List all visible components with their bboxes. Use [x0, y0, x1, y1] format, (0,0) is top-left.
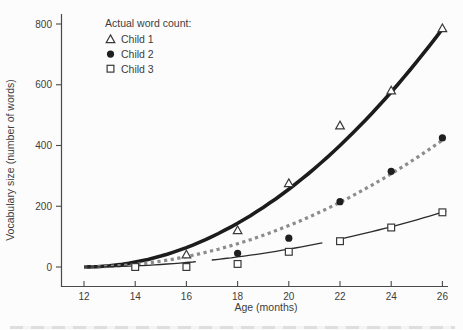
cropped-caption-remnant [10, 326, 455, 329]
x-tick-label: 12 [78, 291, 90, 302]
data-point-child-3 [132, 264, 139, 271]
data-point-child-3 [183, 264, 190, 271]
x-tick-label: 24 [386, 291, 398, 302]
legend-items: Child 1Child 2Child 3 [106, 33, 154, 74]
legend-marker-open-triangle [106, 35, 115, 43]
fit-curve-3 [84, 210, 449, 267]
data-point-child-3 [234, 261, 241, 268]
data-point-child-2 [234, 250, 241, 257]
data-point-child-1 [233, 226, 242, 234]
x-tick-label: 22 [334, 291, 346, 302]
x-tick-label: 14 [130, 291, 142, 302]
data-point-child-1 [438, 24, 447, 32]
vocabulary-growth-chart: 12141618202224260200400600800 Vocabulary… [0, 0, 463, 330]
data-point-child-2 [285, 235, 292, 242]
data-point-child-2 [439, 134, 446, 141]
data-point-child-1 [285, 179, 294, 187]
legend-item-label: Child 1 [121, 33, 154, 45]
y-tick-label: 200 [35, 201, 52, 212]
fit-curve-2 [84, 140, 442, 267]
data-point-child-3 [285, 248, 292, 255]
data-point-child-1 [336, 121, 345, 129]
axes: 12141618202224260200400600800 [35, 14, 448, 302]
y-axis-title: Vocabulary size (number of words) [4, 79, 16, 241]
vocabulary-growth-figure: 12141618202224260200400600800 Vocabulary… [0, 0, 463, 330]
x-tick-label: 26 [437, 291, 449, 302]
data-point-child-3 [337, 238, 344, 245]
x-axis-title: Age (months) [234, 301, 297, 313]
data-point-child-2 [336, 198, 343, 205]
axis-lines [62, 14, 449, 287]
y-tick-label: 0 [46, 262, 52, 273]
data-point-child-3 [388, 224, 395, 231]
legend-item-label: Child 3 [121, 63, 154, 75]
y-tick-label: 400 [35, 140, 52, 151]
data-point-child-1 [182, 250, 191, 258]
legend-item-label: Child 2 [121, 48, 154, 60]
series-markers [132, 24, 447, 270]
data-point-child-2 [388, 168, 395, 175]
y-tick-label: 800 [35, 19, 52, 30]
y-tick-label: 600 [35, 79, 52, 90]
legend-title: Actual word count: [105, 17, 191, 29]
data-point-child-3 [439, 209, 446, 216]
legend-marker-filled-circle [107, 51, 114, 58]
legend-marker-open-square [107, 65, 114, 72]
x-tick-label: 16 [181, 291, 193, 302]
